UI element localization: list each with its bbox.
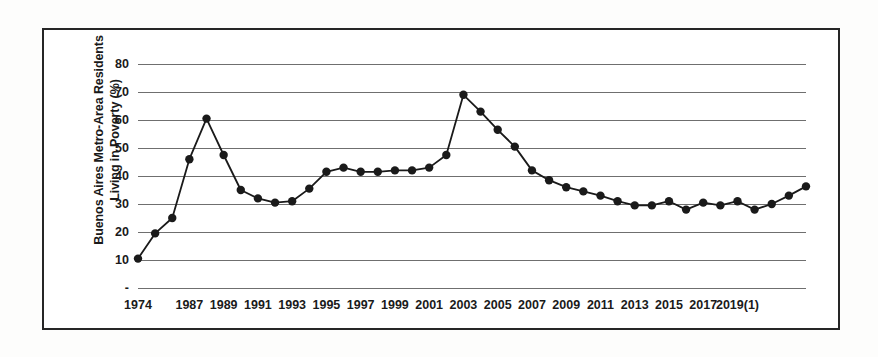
data-point-marker (202, 114, 210, 122)
data-point-marker (151, 229, 159, 237)
x-axis-tick-label: 1999 (381, 298, 409, 312)
data-point-marker (665, 197, 673, 205)
y-axis-tick-label: 30 (115, 197, 129, 211)
y-axis-tick-label: - (125, 281, 129, 295)
data-point-marker (785, 191, 793, 199)
data-point-marker (442, 151, 450, 159)
x-axis-tick-label: 1997 (347, 298, 375, 312)
y-axis-tick-label: 50 (115, 141, 129, 155)
x-axis-tick-label: 2017 (689, 298, 717, 312)
x-axis-tick-label: 1993 (278, 298, 306, 312)
data-point-marker (631, 201, 639, 209)
data-point-marker (476, 107, 484, 115)
x-axis-tick-label: 2005 (484, 298, 512, 312)
y-axis-tick-label: 70 (115, 85, 129, 99)
x-axis-tick-label: 2009 (552, 298, 580, 312)
data-point-marker (648, 201, 656, 209)
data-point-marker (305, 184, 313, 192)
chart-page: Buenos Aires Metro-Area Residents Living… (0, 0, 878, 357)
data-point-marker (168, 214, 176, 222)
data-point-marker (356, 168, 364, 176)
series-line (138, 95, 806, 259)
x-axis-tick-label: 2013 (621, 298, 649, 312)
x-axis-tick-label: 2019(1) (716, 298, 759, 312)
data-point-marker (768, 200, 776, 208)
data-point-marker (408, 166, 416, 174)
chart-figure-frame: Buenos Aires Metro-Area Residents Living… (42, 28, 840, 330)
data-point-marker (579, 187, 587, 195)
x-axis-tick-label: 2003 (450, 298, 478, 312)
data-point-marker (682, 205, 690, 213)
data-point-marker (425, 163, 433, 171)
x-axis-tick-label: 1995 (313, 298, 341, 312)
data-point-marker (733, 197, 741, 205)
data-point-marker (562, 183, 570, 191)
data-point-marker (391, 166, 399, 174)
gridline (138, 288, 806, 289)
data-point-marker (185, 155, 193, 163)
data-point-marker (459, 91, 467, 99)
x-axis-tick-label: 2015 (655, 298, 683, 312)
data-point-marker (374, 168, 382, 176)
plot-area: 8070605040302010- (138, 64, 806, 288)
data-point-marker (613, 197, 621, 205)
data-point-marker (596, 191, 604, 199)
data-point-marker (237, 186, 245, 194)
data-point-marker (511, 142, 519, 150)
x-axis-tick-label: 2011 (587, 298, 614, 312)
poverty-series (138, 64, 806, 288)
x-axis-tick-label: 1989 (210, 298, 238, 312)
data-point-marker (134, 254, 142, 262)
data-point-marker (219, 151, 227, 159)
data-point-marker (716, 201, 724, 209)
data-point-marker (528, 166, 536, 174)
y-axis-tick-label: 40 (115, 169, 129, 183)
data-point-marker (271, 198, 279, 206)
x-axis-tick-label: 2001 (415, 298, 443, 312)
x-axis-tick-labels: 1974198719891991199319951997199920012003… (138, 298, 806, 320)
y-axis-tick-label: 60 (115, 113, 129, 127)
data-point-marker (493, 126, 501, 134)
y-axis-tick-label: 80 (115, 57, 129, 71)
data-point-marker (288, 197, 296, 205)
data-point-marker (699, 198, 707, 206)
data-point-marker (545, 176, 553, 184)
data-point-marker (339, 163, 347, 171)
data-point-marker (802, 182, 810, 190)
data-point-marker (750, 205, 758, 213)
x-axis-tick-label: 2007 (518, 298, 546, 312)
y-axis-tick-label: 10 (115, 253, 129, 267)
y-axis-tick-label: 20 (115, 225, 129, 239)
data-point-marker (322, 168, 330, 176)
data-point-marker (254, 194, 262, 202)
x-axis-tick-label: 1974 (124, 298, 152, 312)
x-axis-tick-label: 1987 (175, 298, 203, 312)
x-axis-tick-label: 1991 (244, 298, 272, 312)
